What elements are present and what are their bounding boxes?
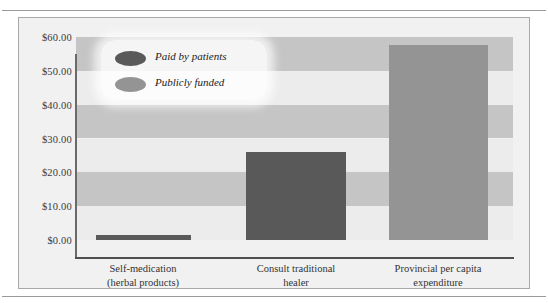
category-label-line: Consult traditional (221, 262, 371, 276)
bar (389, 45, 488, 240)
y-axis-tick-label: $50.00 (18, 65, 72, 76)
category-label-line: Self-medication (73, 262, 213, 276)
y-axis-tick-label: $20.00 (18, 167, 72, 178)
legend-label: Publicly funded (155, 76, 224, 88)
y-axis-line (75, 54, 77, 258)
bottom-divider-rule (2, 296, 546, 297)
category-label-line: expenditure (358, 276, 518, 290)
y-axis-tick-label: $10.00 (18, 201, 72, 212)
category-label-line: (herbal products) (73, 276, 213, 290)
y-axis-tick-label: $0.00 (18, 235, 72, 246)
legend-swatch-icon (115, 77, 146, 92)
top-divider-rule (2, 10, 546, 11)
category-label-line: Provincial per capita (358, 262, 518, 276)
chart-panel: $60.00$50.00$40.00$30.00$20.00$10.00$0.0… (18, 17, 530, 289)
category-label-line: healer (221, 276, 371, 290)
x-axis-line (75, 257, 514, 259)
bar (96, 235, 191, 240)
x-axis-category-label: Consult traditionalhealer (221, 262, 371, 289)
y-axis-tick-label: $30.00 (18, 133, 72, 144)
legend-label: Paid by patients (155, 50, 227, 62)
x-axis-category-label: Provincial per capitaexpenditure (358, 262, 518, 289)
legend-swatch-icon (115, 51, 146, 66)
bar (246, 152, 346, 240)
y-axis-tick-label: $40.00 (18, 99, 72, 110)
cut-off-title-strip (0, 0, 548, 9)
y-axis-tick-label: $60.00 (18, 32, 72, 43)
x-axis-category-label: Self-medication(herbal products) (73, 262, 213, 289)
y-axis-tick-labels: $60.00$50.00$40.00$30.00$20.00$10.00$0.0… (19, 18, 72, 290)
chart-legend: Paid by patients Publicly funded (101, 40, 267, 100)
